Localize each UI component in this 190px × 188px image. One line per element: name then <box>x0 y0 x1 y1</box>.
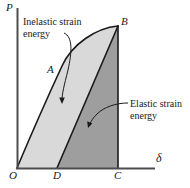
elastic-label-line-2: energy <box>130 110 182 122</box>
elastic-strain-energy-label: Elastic strain energy <box>130 98 182 122</box>
point-label-c: C <box>114 170 121 181</box>
inelastic-strain-energy-label: Inelastic strain energy <box>23 16 82 40</box>
elastic-label-line-1: Elastic strain <box>130 98 182 110</box>
point-label-d: D <box>53 170 61 181</box>
inelastic-label-line-1: Inelastic strain <box>23 16 82 28</box>
axis-label-p: P <box>6 2 13 13</box>
point-label-b: B <box>121 16 128 27</box>
load-deflection-figure: P B A O D C δ Inelastic strain energy El… <box>0 0 190 188</box>
point-label-a: A <box>47 64 54 75</box>
axis-label-delta: δ <box>156 152 162 164</box>
point-label-o: O <box>9 170 17 181</box>
inelastic-label-line-2: energy <box>23 28 82 40</box>
